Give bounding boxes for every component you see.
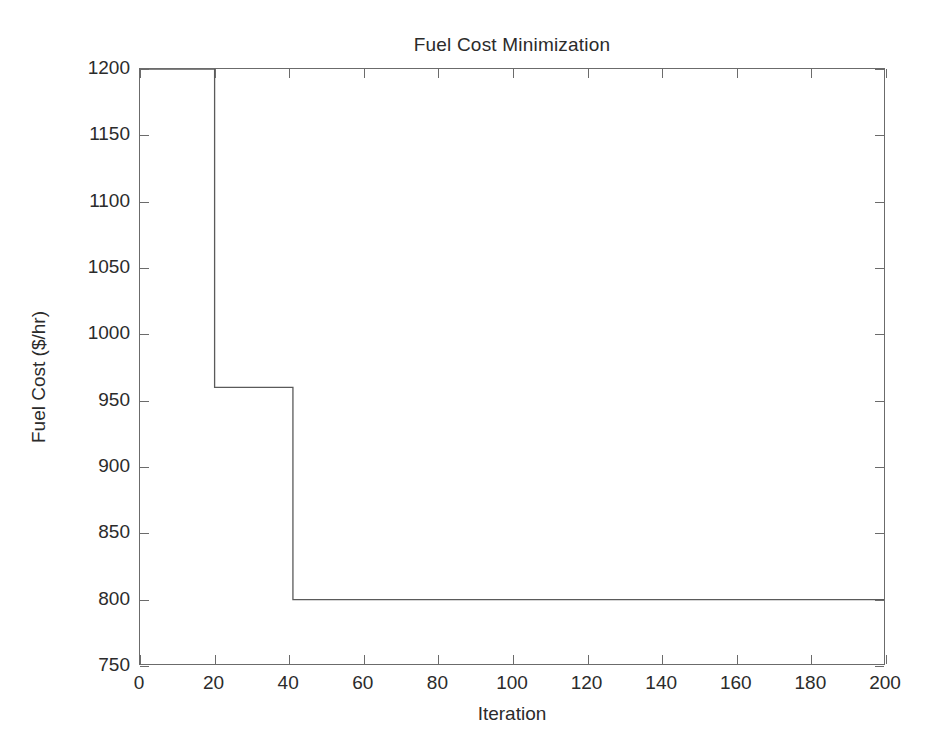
x-tick-top-180 (811, 69, 812, 78)
x-tick-top-160 (737, 69, 738, 78)
x-axis-title: Iteration (139, 703, 885, 725)
x-tick-top-140 (662, 69, 663, 78)
y-tick-right-900 (875, 467, 884, 468)
x-tick-label-120: 120 (547, 672, 627, 694)
y-tick-1200 (140, 69, 149, 70)
y-tick-label-1150: 1150 (10, 123, 130, 145)
y-tick-1000 (140, 334, 149, 335)
y-tick-950 (140, 401, 149, 402)
x-tick-top-200 (886, 69, 887, 78)
x-tick-top-120 (588, 69, 589, 78)
x-tick-top-20 (215, 69, 216, 78)
y-tick-right-950 (875, 401, 884, 402)
x-tick-180 (811, 655, 812, 664)
x-tick-label-140: 140 (621, 672, 701, 694)
x-tick-label-20: 20 (174, 672, 254, 694)
x-tick-top-40 (289, 69, 290, 78)
x-tick-label-40: 40 (248, 672, 328, 694)
y-tick-1100 (140, 202, 149, 203)
y-tick-900 (140, 467, 149, 468)
y-tick-right-1100 (875, 202, 884, 203)
x-tick-top-0 (140, 69, 141, 78)
x-tick-label-0: 0 (99, 672, 179, 694)
x-tick-top-60 (364, 69, 365, 78)
x-tick-label-200: 200 (845, 672, 925, 694)
y-tick-right-850 (875, 533, 884, 534)
chart-title: Fuel Cost Minimization (139, 34, 885, 56)
data-series-line (140, 69, 884, 664)
x-tick-label-60: 60 (323, 672, 403, 694)
y-tick-label-800: 800 (10, 588, 130, 610)
y-tick-850 (140, 533, 149, 534)
x-tick-label-100: 100 (472, 672, 552, 694)
x-tick-20 (215, 655, 216, 664)
y-tick-label-1100: 1100 (10, 190, 130, 212)
y-tick-right-750 (875, 666, 884, 667)
y-axis-title: Fuel Cost ($/hr) (28, 227, 50, 527)
x-tick-60 (364, 655, 365, 664)
x-tick-100 (513, 655, 514, 664)
y-tick-1150 (140, 135, 149, 136)
y-tick-800 (140, 600, 149, 601)
y-tick-right-800 (875, 600, 884, 601)
y-axis-tick-labels: 75080085090095010001050110011501200 (5, 68, 130, 665)
y-tick-label-1200: 1200 (10, 57, 130, 79)
plot-area (139, 68, 885, 665)
x-tick-160 (737, 655, 738, 664)
y-tick-right-1050 (875, 268, 884, 269)
y-tick-right-1150 (875, 135, 884, 136)
y-tick-right-1200 (875, 69, 884, 70)
y-tick-750 (140, 666, 149, 667)
x-tick-80 (438, 655, 439, 664)
x-axis-tick-labels: 020406080100120140160180200 (139, 672, 885, 700)
x-tick-200 (886, 655, 887, 664)
x-tick-40 (289, 655, 290, 664)
series-polyline (140, 69, 884, 600)
chart-figure: Fuel Cost Minimization 75080085090095010… (0, 0, 934, 749)
x-tick-label-80: 80 (397, 672, 477, 694)
x-tick-label-160: 160 (696, 672, 776, 694)
x-tick-140 (662, 655, 663, 664)
y-tick-1050 (140, 268, 149, 269)
x-tick-0 (140, 655, 141, 664)
x-tick-top-80 (438, 69, 439, 78)
plot-inner (140, 69, 884, 664)
x-tick-top-100 (513, 69, 514, 78)
y-tick-right-1000 (875, 334, 884, 335)
x-tick-120 (588, 655, 589, 664)
x-tick-label-180: 180 (770, 672, 850, 694)
